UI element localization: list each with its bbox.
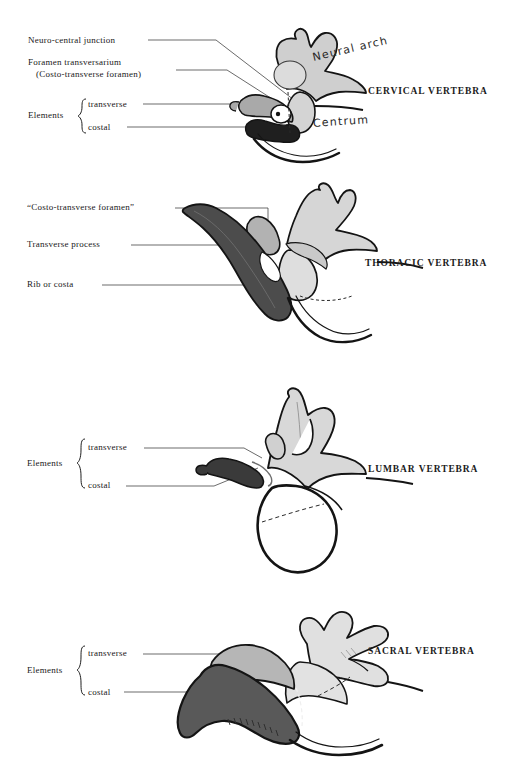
label-costal-element: costal xyxy=(88,122,111,133)
label-costal-element: costal xyxy=(88,687,111,698)
label-transverse-element: transverse xyxy=(88,442,127,453)
cervical-foramen-transversarium xyxy=(271,105,291,123)
sacral-inferior-sweep-inner xyxy=(296,732,379,747)
label-costo-transverse-foramen: (Costo-transverse foramen) xyxy=(36,69,141,80)
panel-title-lumbar: LUMBAR VERTEBRA xyxy=(368,464,478,474)
lumbar-lateral-bar xyxy=(366,478,413,484)
sacral-vertebra-illustration xyxy=(0,592,518,770)
label-elements-bracket-title: Elements xyxy=(27,458,63,469)
label-costo-transverse-foramen-quoted: “Costo-transverse foramen” xyxy=(27,202,134,213)
label-foramen-transversarium: Foramen transversarium xyxy=(28,57,121,68)
cervical-transverse-tip xyxy=(230,102,239,111)
panel-cervical-vertebra: Neuro-central junction Foramen transvers… xyxy=(0,0,518,180)
label-costal-element: costal xyxy=(88,480,111,491)
label-elements-bracket-title: Elements xyxy=(27,665,63,676)
sacral-lateral-bar xyxy=(388,682,423,691)
lumbar-costal-tip xyxy=(196,465,207,475)
panel-title-cervical: CERVICAL VERTEBRA xyxy=(368,86,488,96)
lumbar-centrum-shape xyxy=(258,485,337,572)
panel-lumbar-vertebra: Elements transverse costal LUMBAR VERTEB… xyxy=(0,382,518,582)
panel-title-thoracic: THORACIC VERTEBRA xyxy=(365,258,487,268)
cervical-lateral-bar xyxy=(315,106,363,110)
panel-title-sacral: SACRAL VERTEBRA xyxy=(368,646,475,656)
cervical-foramen-center-dot xyxy=(276,112,280,116)
label-rib-or-costa: Rib or costa xyxy=(27,279,74,290)
label-transverse-element: transverse xyxy=(88,99,127,110)
panel-thoracic-vertebra: “Costo-transverse foramen” Transverse pr… xyxy=(0,178,518,373)
lumbar-vertebra-illustration xyxy=(0,382,518,582)
cervical-neural-canal xyxy=(274,61,306,89)
label-transverse-process: Transverse process xyxy=(27,239,100,250)
sacral-inferior-sweep xyxy=(290,740,382,755)
label-elements-bracket-title: Elements xyxy=(28,110,64,121)
anatomical-plate: Neuro-central junction Foramen transvers… xyxy=(0,0,518,770)
label-transverse-element: transverse xyxy=(88,648,127,659)
label-neuro-central-junction: Neuro-central junction xyxy=(28,35,115,46)
panel-sacral-vertebra: Elements transverse costal SACRAL VERTEB… xyxy=(0,592,518,770)
